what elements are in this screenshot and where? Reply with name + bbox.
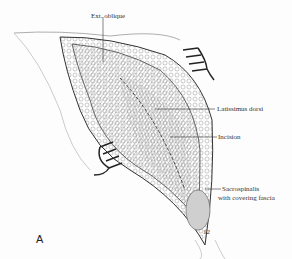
panel-letter: A bbox=[36, 233, 43, 245]
label-incision: Incision bbox=[218, 133, 241, 141]
label-ext-oblique: Ext. oblique bbox=[91, 12, 125, 20]
label-sacrospinalis: Sacrospinalis bbox=[222, 185, 259, 193]
incision-drawing bbox=[0, 0, 292, 259]
surgical-illustration: Ext. oblique Latissimus dorsi Incision S… bbox=[0, 0, 292, 259]
label-rib-12: 12 bbox=[203, 228, 210, 236]
label-covering-fascia: with covering fascia bbox=[218, 194, 275, 202]
label-latissimus-dorsi: Latissimus dorsi bbox=[217, 105, 263, 113]
